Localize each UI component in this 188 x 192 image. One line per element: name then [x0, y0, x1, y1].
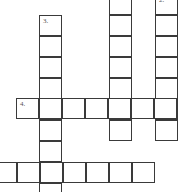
crossword-cell-row5-0[interactable]: [0, 162, 17, 183]
crossword-cell-col2-2[interactable]: [155, 36, 178, 57]
crossword-cell-row4-3[interactable]: [85, 98, 108, 119]
clue-number: 4.: [20, 100, 25, 108]
crossword-cell-col2-4[interactable]: [155, 78, 178, 99]
crossword-cell-col2-1[interactable]: [155, 15, 178, 36]
clue-number: 2.: [159, 0, 164, 4]
crossword-cell-row4-6[interactable]: [154, 98, 177, 119]
crossword-cell-row4-1[interactable]: [39, 98, 62, 119]
crossword-cell-row5-4[interactable]: [86, 162, 109, 183]
crossword-cell-col1-2[interactable]: [109, 36, 132, 57]
crossword-cell-row4-4[interactable]: [108, 98, 131, 119]
crossword-cell-col1-4[interactable]: [109, 78, 132, 99]
crossword-grid: 2.3.4.: [0, 0, 188, 192]
crossword-cell-col3-6[interactable]: [39, 141, 62, 162]
crossword-cell-col1-0[interactable]: [109, 0, 132, 15]
crossword-cell-row5-5[interactable]: [109, 162, 132, 183]
crossword-cell-col3-2[interactable]: [39, 57, 62, 78]
clue-number: 3.: [43, 17, 48, 25]
crossword-cell-col3-3[interactable]: [39, 78, 62, 99]
crossword-cell-col1-6[interactable]: [109, 120, 132, 141]
crossword-cell-row5-2[interactable]: [40, 162, 63, 183]
crossword-cell-col2-0[interactable]: 2.: [155, 0, 178, 15]
crossword-cell-row4-0[interactable]: 4.: [16, 98, 39, 119]
crossword-cell-row4-5[interactable]: [131, 98, 154, 119]
crossword-cell-col1-1[interactable]: [109, 15, 132, 36]
crossword-cell-col3-8[interactable]: [39, 183, 62, 192]
crossword-cell-col2-6[interactable]: [155, 120, 178, 141]
crossword-cell-row5-3[interactable]: [63, 162, 86, 183]
crossword-cell-col3-1[interactable]: [39, 36, 62, 57]
crossword-cell-col3-0[interactable]: 3.: [39, 15, 62, 36]
crossword-cell-col3-5[interactable]: [39, 120, 62, 141]
crossword-cell-row4-2[interactable]: [62, 98, 85, 119]
crossword-cell-row5-1[interactable]: [17, 162, 40, 183]
crossword-cell-col1-3[interactable]: [109, 57, 132, 78]
crossword-cell-col2-3[interactable]: [155, 57, 178, 78]
crossword-cell-row5-6[interactable]: [132, 162, 155, 183]
